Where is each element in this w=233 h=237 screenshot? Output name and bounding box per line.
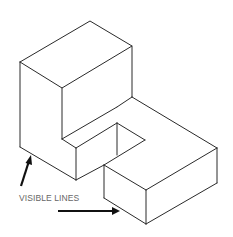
- tall-block: [20, 21, 132, 180]
- visible-lines-arrow-left: [21, 155, 32, 186]
- visible-lines-label: VISIBLE LINES: [19, 193, 79, 203]
- visible-lines-arrow-bottom: [58, 207, 120, 215]
- base-block: [104, 97, 217, 224]
